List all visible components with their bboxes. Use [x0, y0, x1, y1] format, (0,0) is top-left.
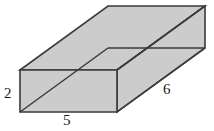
dimension-label-height: 2 — [4, 86, 12, 101]
rectangular-prism-figure: 2 5 6 — [0, 0, 214, 131]
dimension-label-depth: 6 — [163, 82, 171, 97]
dimension-label-width: 5 — [63, 113, 71, 128]
prism-drawing — [0, 0, 214, 131]
